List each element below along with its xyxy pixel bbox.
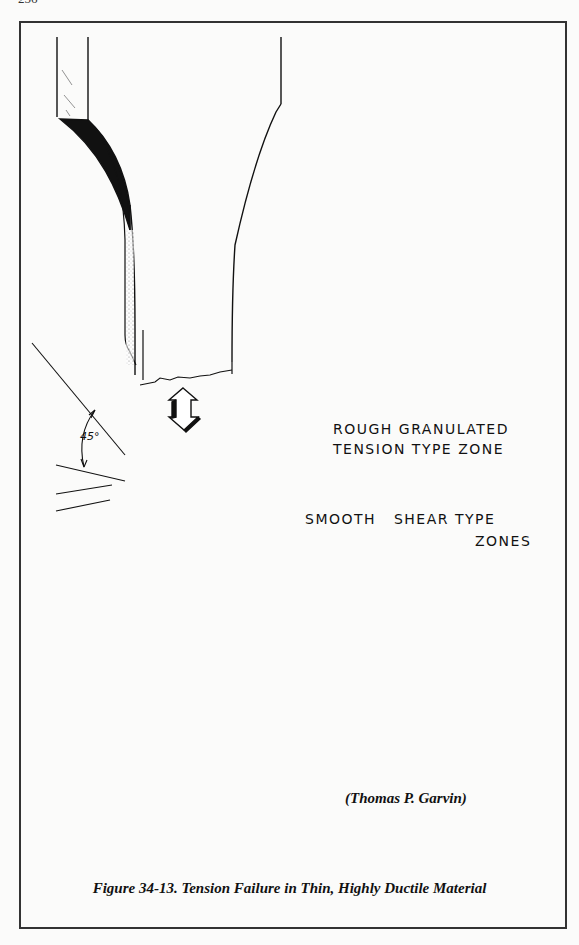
figure-caption: Figure 34-13. Tension Failure in Thin, H…	[0, 880, 579, 897]
rough-zone-label-line1: ROUGH GRANULATED	[333, 420, 509, 439]
tensile-specimen-drawing	[0, 0, 579, 945]
rough-zone-label-line2: TENSION TYPE ZONE	[333, 440, 504, 459]
angle-label: 45°	[80, 430, 100, 443]
angle-construction	[32, 343, 125, 511]
upper-specimen	[57, 37, 281, 385]
figure-credit: (Thomas P. Garvin)	[345, 790, 467, 807]
shear-zone-label-line1: SMOOTH SHEAR TYPE	[305, 510, 495, 529]
separation-arrow-icon	[169, 388, 200, 432]
shear-zone-label-line2: ZONES	[475, 532, 531, 551]
